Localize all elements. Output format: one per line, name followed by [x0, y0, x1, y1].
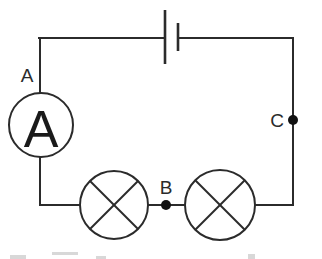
label-point-c: C [270, 110, 284, 131]
circuit-diagram-svg: A A B C [0, 0, 322, 259]
lamp-left-symbol [80, 171, 148, 239]
circuit-diagram-canvas: A A B C [0, 0, 322, 259]
node-b-dot [161, 200, 171, 210]
ammeter-symbol: A [9, 93, 73, 158]
bottom-edge-artifacts [10, 252, 255, 259]
edge-artifact-mid-left [52, 252, 78, 255]
label-point-a: A [21, 65, 34, 86]
lamp-right-symbol [185, 170, 255, 240]
label-point-b: B [160, 177, 173, 198]
ammeter-letter: A [24, 100, 59, 158]
battery-symbol [165, 10, 178, 64]
node-c-dot [288, 115, 298, 125]
edge-artifact-left [10, 255, 26, 259]
edge-artifact-right [248, 254, 255, 259]
